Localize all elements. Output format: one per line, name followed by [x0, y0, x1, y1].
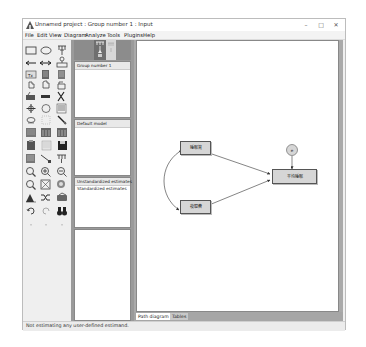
svg-text:Tx: Tx: [27, 73, 33, 78]
status-bar: Not estimating any user-defined estimand…: [23, 321, 345, 331]
view-switcher-strip: [74, 40, 131, 60]
observed-variable-x1[interactable]: 睡眠質: [180, 141, 211, 155]
specification-search-icon[interactable]: [57, 193, 67, 201]
resize-diagram-icon[interactable]: [41, 180, 50, 189]
list-variables-in-model-icon[interactable]: [42, 70, 49, 79]
binoculars-search-icon[interactable]: [57, 207, 67, 216]
path-diagram-canvas[interactable]: e 睡眠質 夜間費 平均睡眠: [136, 40, 339, 312]
move-icon[interactable]: [41, 95, 50, 98]
zoom-in-icon[interactable]: [42, 168, 51, 177]
title-bar: Unnamed project : Group number 1 : Input…: [23, 19, 345, 31]
change-shape-icon[interactable]: [27, 104, 36, 113]
groups-panel-item[interactable]: Group number 1: [75, 62, 130, 70]
data-files-icon[interactable]: [26, 128, 36, 137]
menu-analyze[interactable]: Analyze: [85, 31, 106, 39]
tab-tables[interactable]: Tables: [170, 313, 188, 320]
copy-to-clipboard-icon[interactable]: [27, 140, 35, 150]
view-input-path-diagram-button[interactable]: [94, 40, 106, 60]
menu-view[interactable]: View: [49, 31, 62, 39]
redo-icon[interactable]: [43, 208, 49, 214]
analysis-properties-icon[interactable]: [41, 128, 51, 137]
erase-icon[interactable]: [58, 92, 64, 101]
menu-plugins[interactable]: Plugins: [124, 31, 143, 39]
menu-bar: File Edit View Diagram Analyze Tools Plu…: [23, 31, 345, 40]
observed-variable-y[interactable]: 平均睡眠: [272, 169, 317, 184]
amos-window: Unnamed project : Group number 1 : Input…: [22, 18, 346, 330]
deselect-all-icon[interactable]: [58, 82, 65, 89]
minimize-button[interactable]: –: [299, 20, 313, 30]
estimates-panel[interactable]: Unstandardized estimates Standardized es…: [74, 177, 131, 228]
menu-help[interactable]: Help: [143, 31, 155, 39]
close-button[interactable]: ✕: [329, 20, 343, 30]
maximize-button[interactable]: □: [314, 20, 328, 30]
covariance-arrow: [164, 152, 179, 210]
window-title: Unnamed project : Group number 1 : Input: [35, 21, 153, 27]
path-arrow-x1-y: [209, 153, 270, 174]
models-panel-item[interactable]: Default model: [75, 120, 130, 128]
duplicate-icon[interactable]: [26, 92, 35, 100]
rectangle-observed-variable-icon[interactable]: [26, 47, 36, 54]
select-all-objects-icon[interactable]: [43, 81, 49, 88]
standardized-estimates-option[interactable]: Standardized estimates: [75, 186, 130, 191]
models-panel[interactable]: Default model: [74, 119, 131, 176]
ellipse-latent-variable-icon[interactable]: [41, 47, 51, 54]
menu-diagram[interactable]: Diagram: [64, 31, 87, 39]
unique-variable-icon[interactable]: [57, 57, 67, 67]
undo-icon[interactable]: [27, 208, 34, 214]
app-icon: [26, 21, 34, 29]
computation-summary-panel: [74, 229, 131, 321]
groups-panel[interactable]: Group number 1: [74, 61, 131, 118]
reflect-indicators-icon[interactable]: [57, 104, 66, 113]
preserve-symmetries-icon[interactable]: [57, 155, 66, 163]
magnify-icon[interactable]: [57, 180, 65, 188]
menu-tools[interactable]: Tools: [107, 31, 120, 39]
view-output-path-diagram-button[interactable]: [106, 40, 116, 60]
move-parameter-icon[interactable]: [27, 118, 35, 124]
view-tabs: Path diagram Tables: [134, 312, 343, 321]
calculate-estimates-icon[interactable]: [57, 128, 67, 137]
unstandardized-estimates-option[interactable]: Unstandardized estimates: [75, 178, 130, 186]
zoom-in-area-icon[interactable]: [27, 168, 36, 177]
menu-edit[interactable]: Edit: [37, 31, 47, 39]
title-icon[interactable]: Tx: [26, 71, 36, 78]
toolbox: Tx: [23, 40, 71, 321]
middle-panel: Group number 1 Default model Unstandardi…: [71, 40, 134, 321]
save-icon[interactable]: [58, 141, 67, 150]
show-whole-page-icon[interactable]: [27, 181, 36, 190]
view-text-icon[interactable]: [42, 141, 51, 150]
indicator-variable-icon[interactable]: [58, 46, 66, 55]
object-properties-icon[interactable]: [26, 154, 35, 163]
observed-variable-x2[interactable]: 夜間費: [180, 200, 211, 214]
link-objects-icon[interactable]: [41, 195, 50, 200]
status-text: Not estimating any user-defined estimand…: [26, 323, 129, 328]
touch-up-icon[interactable]: [58, 116, 66, 124]
rotate-indicators-icon[interactable]: [42, 105, 50, 113]
degrees-of-freedom-icon[interactable]: [26, 194, 36, 202]
diagram-area: e 睡眠質 夜間費 平均睡眠 Path diagram Tables: [134, 40, 343, 321]
drag-properties-icon[interactable]: [41, 155, 51, 163]
zoom-out-icon[interactable]: [58, 168, 67, 177]
select-one-object-icon[interactable]: [29, 82, 34, 88]
path-arrow-x2-y: [209, 180, 270, 205]
toolbox-scroll-marks: [31, 224, 62, 226]
double-arrow-covariance-icon[interactable]: [40, 61, 51, 65]
scroll-icon[interactable]: [42, 116, 50, 124]
single-arrow-path-icon[interactable]: [26, 61, 36, 65]
menu-file[interactable]: File: [25, 31, 34, 39]
tab-path-diagram[interactable]: Path diagram: [136, 313, 171, 320]
list-variables-in-dataset-icon[interactable]: [58, 70, 65, 79]
